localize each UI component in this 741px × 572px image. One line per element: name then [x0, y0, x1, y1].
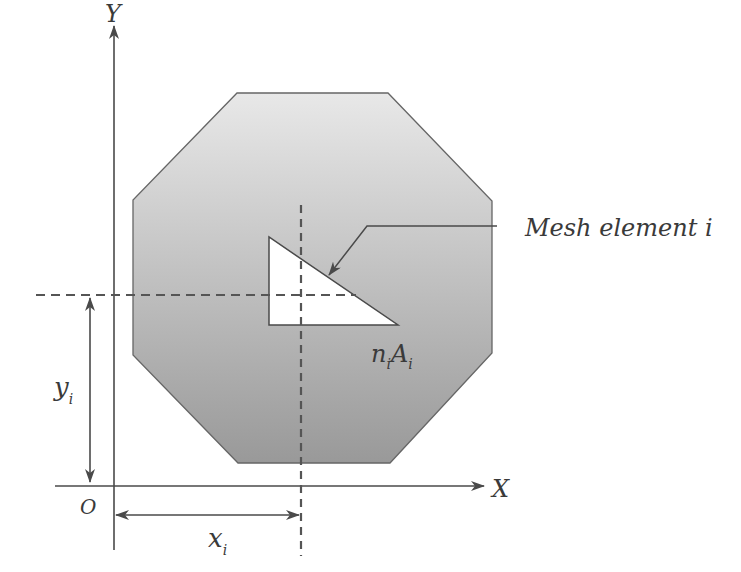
x-axis-label: X: [490, 475, 510, 503]
x-subscript: i: [223, 542, 227, 558]
y-axis-label: Y: [105, 0, 123, 28]
a-symbol: A: [389, 340, 408, 368]
y-symbol: y: [53, 372, 69, 402]
origin-label: O: [80, 495, 96, 519]
y-subscript: i: [69, 391, 73, 407]
a-subscript: i: [408, 356, 412, 372]
x-dimension-label: xi: [208, 523, 227, 558]
x-symbol: x: [208, 523, 223, 553]
n-symbol: n: [371, 340, 386, 368]
y-dimension-label: yi: [53, 372, 73, 407]
centroid-diagram: Y X O Mesh element i niAi yi xi: [0, 0, 741, 572]
element-area-label: niAi: [371, 340, 413, 372]
mesh-element-label: Mesh element i: [524, 214, 713, 242]
